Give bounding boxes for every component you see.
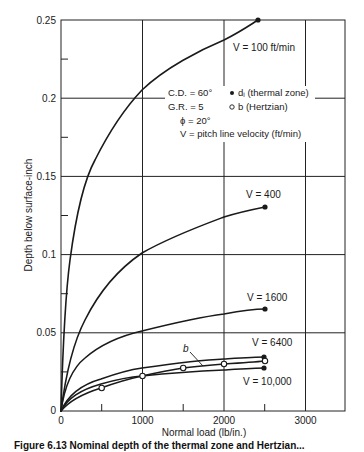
x-axis-title: Normal load (lb/in.) xyxy=(162,427,246,438)
xtick-2000: 2000 xyxy=(213,415,236,426)
legend-hertz: b (Hertzian) xyxy=(238,101,288,112)
figure-caption: Figure 6.13 Nominal depth of the thermal… xyxy=(14,440,305,451)
param-gr: G.R. = 5 xyxy=(168,101,204,112)
endpoint-v1600 xyxy=(262,306,267,311)
xtick-1000: 1000 xyxy=(131,415,154,426)
ytick-0.25: 0.25 xyxy=(37,15,57,26)
endpoint-v400 xyxy=(262,204,267,209)
xtick-0: 0 xyxy=(58,415,64,426)
legend-thermal: dᵢ (thermal zone) xyxy=(238,87,309,98)
endpoint-v10000 xyxy=(261,365,266,370)
curve-v400 xyxy=(61,207,265,411)
label-v10000: V = 10,000 xyxy=(243,376,292,387)
x-axis-ticks: 0 1000 2000 3000 xyxy=(58,415,317,426)
legend-filled-dot-icon xyxy=(230,91,234,95)
label-v400: V = 400 xyxy=(246,189,281,200)
label-v1600: V = 1600 xyxy=(247,292,288,303)
endpoint-v100 xyxy=(255,17,260,22)
chart-canvas: 0.25 0.2 0.15 0.1 0.05 0 0 1000 2000 300… xyxy=(0,0,364,452)
ytick-0: 0 xyxy=(50,405,56,416)
ytick-0.05: 0.05 xyxy=(37,327,57,338)
label-b: b xyxy=(183,343,189,354)
label-v6400: V = 6400 xyxy=(252,337,293,348)
y-axis-ticks: 0.25 0.2 0.15 0.1 0.05 0 xyxy=(37,15,57,416)
plot-frame xyxy=(61,20,345,411)
curves xyxy=(61,20,265,411)
curve-v1600 xyxy=(61,309,265,411)
ytick-0.2: 0.2 xyxy=(42,93,56,104)
curve-b-hertzian xyxy=(61,361,265,411)
curve-v6400 xyxy=(61,357,265,411)
y-axis-title: Depth below surface-inch xyxy=(23,159,34,272)
grid xyxy=(61,20,345,411)
curve-v10000 xyxy=(61,368,265,411)
xtick-3000: 3000 xyxy=(294,415,317,426)
param-v: V = pitch line velocity (ft/min) xyxy=(180,128,301,139)
label-v100: V = 100 ft/min xyxy=(233,42,295,53)
param-cd: C.D. = 60° xyxy=(168,87,212,98)
legend-open-circle-icon xyxy=(230,105,234,109)
b-leader-line xyxy=(190,352,203,366)
ytick-0.15: 0.15 xyxy=(37,171,57,182)
param-phi: ϕ = 20° xyxy=(180,115,211,126)
ytick-0.1: 0.1 xyxy=(42,249,56,260)
